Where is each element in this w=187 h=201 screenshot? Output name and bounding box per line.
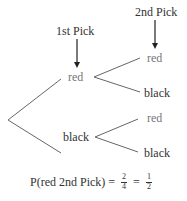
level2-black-red-node: red xyxy=(147,111,162,125)
equals-sign: = xyxy=(133,175,140,190)
level1-black-node: black xyxy=(63,130,89,144)
probability-tree-diagram: 1st Pick 2nd Pick red black red black re… xyxy=(0,0,187,201)
equals-sign: = xyxy=(108,175,115,190)
formula-lhs: P(red 2nd Pick) xyxy=(30,175,105,190)
denominator: 2 xyxy=(147,183,151,191)
level2-black-black-node: black xyxy=(144,146,170,160)
second-pick-header: 2nd Pick xyxy=(135,5,177,19)
numerator: 2 xyxy=(122,173,126,181)
probability-formula: P(red 2nd Pick) = 2 4 = 1 2 xyxy=(30,173,155,191)
level1-red-node: red xyxy=(68,70,83,84)
numerator: 1 xyxy=(147,173,151,181)
first-pick-header: 1st Pick xyxy=(56,24,94,38)
fraction-1-2: 1 2 xyxy=(146,173,152,191)
level2-red-black-node: black xyxy=(144,86,170,100)
denominator: 4 xyxy=(122,183,126,191)
fraction-2-4: 2 4 xyxy=(121,173,127,191)
level2-red-red-node: red xyxy=(147,51,162,65)
